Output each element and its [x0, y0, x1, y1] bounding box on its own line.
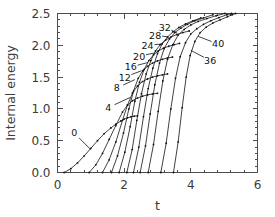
curve-marker — [153, 144, 155, 146]
curve-marker — [194, 20, 196, 22]
curve-marker — [131, 149, 133, 151]
curve-marker — [70, 168, 72, 170]
leader-line-40 — [198, 36, 211, 41]
curve-marker — [197, 21, 199, 23]
curve-marker — [77, 162, 79, 164]
curve-label-36: 36 — [204, 55, 216, 66]
curve-marker — [163, 48, 165, 50]
curve-marker — [159, 62, 161, 64]
curve-marker — [160, 172, 162, 174]
curve-marker — [212, 14, 214, 16]
curve-marker — [143, 69, 145, 71]
curve-marker — [134, 100, 136, 102]
curve-marker — [127, 104, 129, 106]
curve-marker — [162, 80, 164, 82]
curve-marker — [190, 24, 192, 26]
curve-marker — [157, 111, 159, 113]
curve-marker — [212, 22, 214, 24]
curve-marker — [179, 42, 181, 44]
curve-label-32: 32 — [159, 22, 171, 33]
curve-marker — [145, 145, 147, 147]
curve-marker — [142, 95, 144, 97]
curve-marker — [147, 78, 149, 80]
curve-marker — [139, 81, 141, 83]
curve-marker — [152, 62, 154, 64]
internal-energy-line-chart: 02460.00.51.01.52.02.5tInternal energy04… — [0, 0, 275, 217]
curve-marker — [141, 93, 143, 95]
curve-marker — [139, 172, 141, 174]
curve-marker — [122, 119, 124, 121]
x-axis-title: t — [155, 198, 160, 213]
leader-line-0 — [79, 138, 91, 150]
curve-marker — [88, 172, 90, 174]
curve-marker — [172, 44, 174, 46]
curve-marker — [224, 13, 226, 15]
curve-label-8: 8 — [114, 82, 120, 93]
curve-marker — [126, 172, 128, 174]
curve-marker — [185, 76, 187, 78]
curve-marker — [235, 13, 237, 15]
curve-marker — [108, 159, 110, 161]
curve-marker — [189, 55, 191, 57]
curve-marker — [188, 30, 190, 32]
curve-marker — [63, 172, 65, 174]
curve-marker — [219, 19, 221, 21]
curve-marker — [142, 81, 144, 83]
curve-marker — [165, 142, 167, 144]
curve-marker — [122, 111, 124, 113]
y-tick-label: 2.0 — [31, 39, 50, 53]
curve-marker — [157, 92, 159, 94]
curve-marker — [110, 127, 112, 129]
curve-marker — [152, 76, 154, 78]
curve-label-0: 0 — [71, 127, 77, 138]
curve-marker — [227, 16, 229, 18]
curve-marker — [149, 113, 151, 115]
curve-marker — [103, 133, 105, 135]
curve-marker — [169, 38, 171, 40]
y-tick-label: 1.5 — [31, 71, 50, 85]
y-tick-label: 2.5 — [31, 7, 50, 21]
curve-marker — [177, 141, 179, 143]
x-tick-label: 6 — [254, 178, 262, 192]
curve-marker — [147, 172, 149, 174]
curve-marker — [187, 23, 189, 25]
curve-marker — [215, 15, 217, 17]
leader-line-36 — [191, 50, 204, 57]
curve-marker — [83, 155, 85, 157]
curve-marker — [196, 28, 198, 30]
curve-marker — [115, 141, 117, 143]
curve-marker — [218, 17, 220, 19]
curve-label-24: 24 — [141, 40, 153, 51]
curve-marker — [161, 43, 163, 45]
curve-marker — [173, 172, 175, 174]
x-tick-label: 0 — [54, 178, 62, 192]
curve-marker — [133, 90, 135, 92]
curve-marker — [185, 42, 187, 44]
curve-marker — [95, 164, 97, 166]
curve-marker — [150, 60, 152, 62]
curve-marker — [123, 132, 125, 134]
curve-marker — [117, 155, 119, 157]
x-tick-label: 4 — [187, 178, 195, 192]
curve-marker — [203, 23, 205, 25]
curve-marker — [177, 34, 179, 36]
curve-marker — [137, 77, 139, 79]
curve-marker — [133, 115, 135, 117]
curve-marker — [137, 97, 139, 99]
curve-label-40: 40 — [212, 38, 224, 49]
curve-marker — [206, 18, 208, 20]
y-tick-label: 0.5 — [31, 134, 50, 148]
curve-marker — [102, 172, 104, 174]
curve-marker — [129, 126, 131, 128]
curve-marker — [128, 108, 130, 110]
curve-label-16: 16 — [125, 61, 137, 72]
curve-marker — [181, 107, 183, 109]
y-tick-label: 0.0 — [31, 166, 50, 180]
curve-marker — [111, 172, 113, 174]
curve-marker — [178, 27, 180, 29]
curve-marker — [108, 139, 110, 141]
curve-marker — [205, 26, 207, 28]
curve-marker — [226, 14, 228, 16]
curve-marker — [210, 20, 212, 22]
curve-marker — [167, 58, 169, 60]
